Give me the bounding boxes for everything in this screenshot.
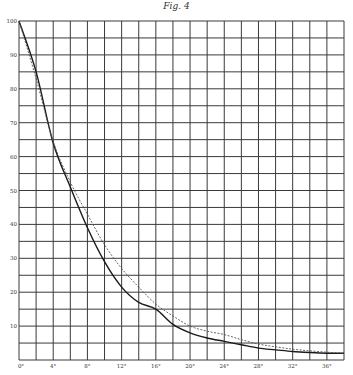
y-tick-label: 70: [10, 120, 17, 126]
y-tick-label: 100: [7, 18, 18, 24]
y-tick-label: 10: [10, 323, 17, 329]
solid-curve: [19, 21, 344, 353]
y-tick-label: 20: [10, 289, 17, 295]
x-tick-label: 24°: [219, 363, 229, 369]
x-tick-label: 12°: [117, 363, 127, 369]
y-tick-label: 30: [10, 255, 17, 261]
dashed-curve: [19, 21, 344, 353]
y-tick-label: 60: [10, 154, 17, 160]
x-tick-label: 8°: [84, 363, 90, 369]
x-tick-label: 28°: [254, 363, 264, 369]
x-axis-ticks: 0°4°8°12°16°20°24°28°32°36°: [18, 363, 332, 369]
x-tick-label: 0°: [18, 363, 24, 369]
y-tick-label: 50: [10, 188, 17, 194]
x-tick-label: 20°: [185, 363, 195, 369]
y-tick-label: 40: [10, 221, 17, 227]
x-tick-label: 32°: [288, 363, 298, 369]
chart-series: [19, 21, 344, 353]
y-tick-label: 80: [10, 86, 17, 92]
line-chart: 102030405060708090100 0°4°8°12°16°20°24°…: [0, 0, 353, 375]
x-tick-label: 4°: [50, 363, 56, 369]
x-tick-label: 16°: [151, 363, 161, 369]
y-tick-label: 90: [10, 52, 17, 58]
x-tick-label: 36°: [322, 363, 332, 369]
chart-grid: [19, 21, 344, 360]
y-axis-ticks: 102030405060708090100: [7, 18, 18, 329]
